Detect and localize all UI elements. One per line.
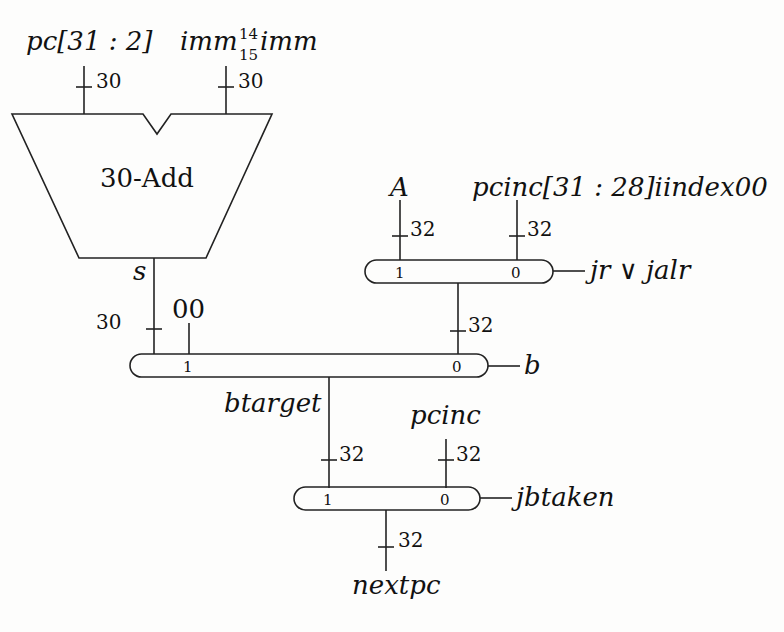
mux-jr-input1-label: A (388, 172, 409, 202)
mux-jr-sel0: 0 (511, 264, 521, 282)
mux-jb-body (294, 487, 480, 510)
mux-jb-output-width: 32 (398, 528, 423, 552)
mux-b-extra-input-label: 00 (172, 294, 205, 324)
mux-jb-select-label: jbtaken (511, 482, 615, 512)
mux-jb-output-label: nextpc (352, 570, 441, 600)
mux-jb-input0-label: pcinc (410, 400, 481, 430)
mux-jb-sel0: 0 (440, 491, 450, 509)
mux-b-sel1: 1 (183, 358, 193, 376)
adder-input-a-label: pc[31 : 2] (26, 26, 153, 56)
mux-b: 1 0 (130, 354, 488, 377)
adder-input-b-width: 30 (238, 69, 263, 93)
adder-input-b-sub: 15 (239, 46, 258, 64)
adder-label: 30-Add (100, 163, 194, 193)
adder-input-b-tail: imm (260, 26, 318, 56)
mux-jb: 1 0 (294, 487, 480, 510)
mux-jr-sel1: 1 (395, 264, 405, 282)
mux-jb-input0-width: 32 (456, 442, 481, 466)
mux-jr-body (365, 260, 553, 283)
adder-input-b-sup: 14 (239, 25, 258, 43)
mux-b-sel0: 0 (452, 358, 462, 376)
mux-jr-input0-label: pcinc[31 : 28]iindex00 (472, 172, 768, 202)
mux-jr-input1-width: 32 (410, 217, 435, 241)
mux-jr-output-width: 32 (468, 313, 493, 337)
mux-jr: 1 0 (365, 260, 553, 283)
mux-b-output-label: btarget (224, 388, 322, 418)
mux-b-select-label: b (524, 350, 541, 380)
adder-output-label: s (133, 256, 146, 286)
adder: 30-Add (12, 114, 272, 258)
adder-input-b-label: imm (180, 26, 238, 56)
mux-jb-sel1: 1 (323, 491, 333, 509)
mux-jr-input0-width: 32 (527, 217, 552, 241)
adder-output-width: 30 (96, 310, 121, 334)
mux-jr-select-label: jr ∨ jalr (585, 255, 692, 285)
mux-jb-input1-width: 32 (339, 442, 364, 466)
adder-input-a-width: 30 (96, 69, 121, 93)
